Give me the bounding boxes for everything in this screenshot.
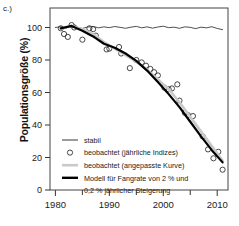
data-point-marker xyxy=(80,37,85,42)
data-point-marker xyxy=(175,82,180,87)
legend-label: stabil xyxy=(84,136,101,145)
chart-canvas: 020406080100 1980199020002010 stabilbeob… xyxy=(0,0,239,226)
legend-label: Modell für Fangrate von 2 % und xyxy=(84,174,188,183)
x-tick-label: 1990 xyxy=(99,199,120,210)
data-point-marker xyxy=(211,156,216,161)
chart-legend: stabilbeobachtet (jährliche Indizes)beob… xyxy=(62,136,188,195)
y-tick-label: 100 xyxy=(27,23,42,33)
legend-label: beobachtet (jährliche Indizes) xyxy=(84,148,178,157)
data-point-marker xyxy=(65,34,70,39)
y-axis-ticks: 020406080100 xyxy=(27,23,50,196)
legend-label: 0,2 % jährlicher Steigerung xyxy=(84,186,170,195)
x-tick-label: 2000 xyxy=(153,199,174,210)
data-point-marker xyxy=(91,27,96,32)
legend-swatch-open-circle xyxy=(67,150,72,155)
legend-label: beobachtet (angepasste Kurve) xyxy=(84,161,184,170)
y-tick-label: 60 xyxy=(32,88,42,98)
x-tick-label: 2010 xyxy=(207,199,228,210)
x-tick-label: 1980 xyxy=(45,199,66,210)
figure-panel-c: c.) Populationsgröße (%) 020406080100 19… xyxy=(0,0,239,226)
data-point-marker xyxy=(127,66,132,71)
y-tick-label: 40 xyxy=(32,120,42,130)
y-tick-label: 0 xyxy=(37,185,42,195)
y-tick-label: 80 xyxy=(32,55,42,65)
y-tick-label: 20 xyxy=(32,153,42,163)
data-point-marker xyxy=(220,167,225,172)
